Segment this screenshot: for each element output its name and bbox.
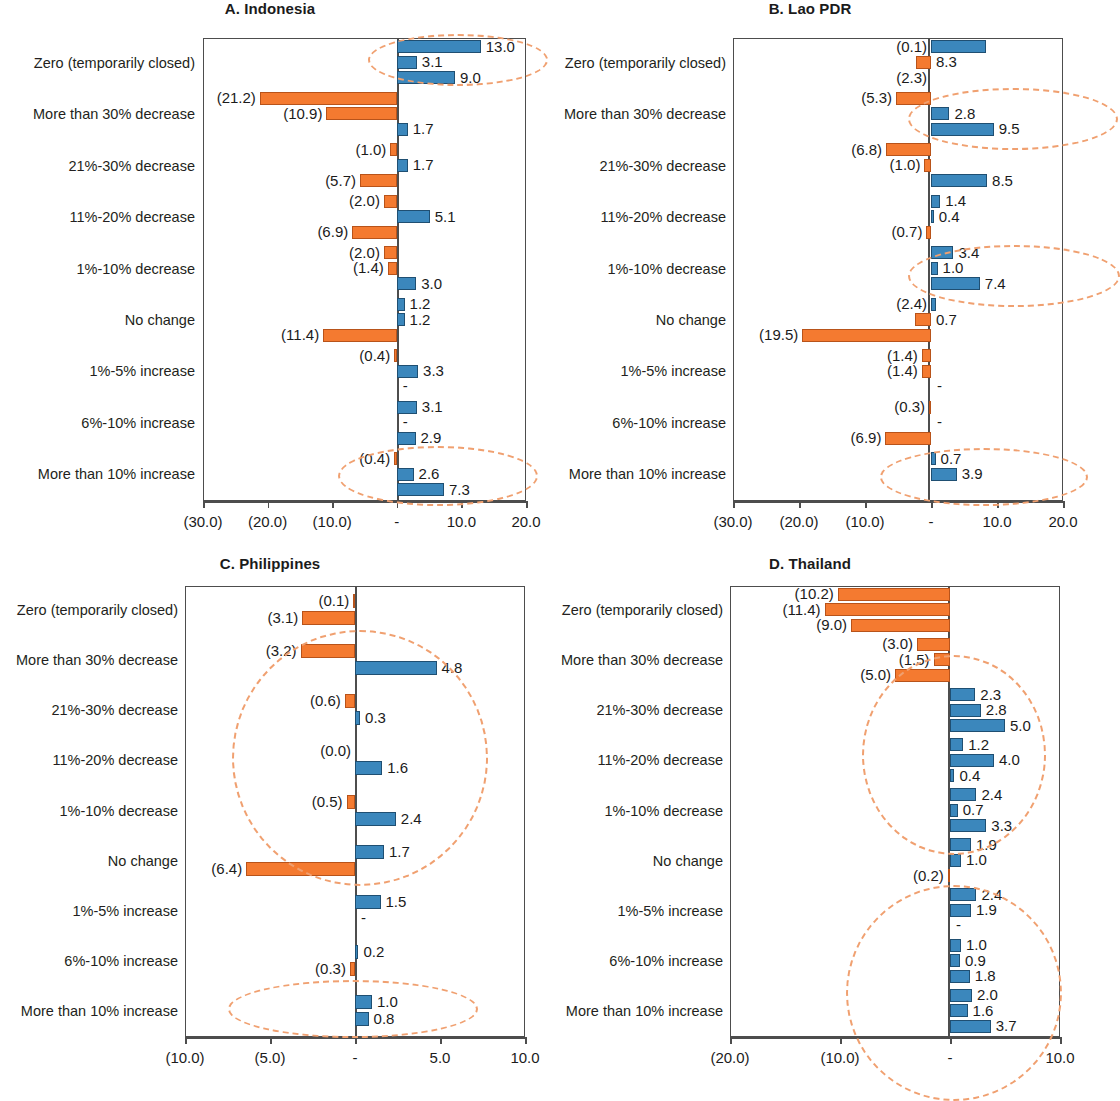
panel-c-philippines: C. Philippines Zero (temporarily closed)… <box>0 555 540 1085</box>
value-label: 1.2 <box>410 312 431 327</box>
category-label: 21%-30% decrease <box>523 703 723 718</box>
bar <box>931 277 980 290</box>
value-label: 3.7 <box>996 1018 1017 1033</box>
x-axis-tick <box>1060 1037 1062 1044</box>
bar <box>916 56 931 69</box>
panel-b-lao-pdr: B. Lao PDR Zero (temporarily closed)More… <box>540 0 1080 540</box>
value-label: (0.4) <box>0 348 390 363</box>
value-label: 13.0 <box>486 39 515 54</box>
value-label: 1.7 <box>389 844 410 859</box>
bar <box>931 298 936 311</box>
panel-d-thailand: D. Thailand Zero (temporarily closed)Mor… <box>540 555 1080 1085</box>
bar <box>895 669 950 682</box>
value-label: - <box>361 910 366 925</box>
bar <box>355 1012 369 1026</box>
bar <box>896 92 931 105</box>
bar <box>931 452 936 465</box>
value-label: (5.0) <box>540 667 891 682</box>
bar <box>246 862 355 876</box>
bar <box>950 788 976 801</box>
value-label: (6.8) <box>540 142 882 157</box>
value-label: - <box>403 414 408 429</box>
value-label: (1.0) <box>0 142 386 157</box>
category-label: More than 10% increase <box>0 467 195 482</box>
bar <box>931 262 938 275</box>
bar <box>885 432 931 445</box>
x-axis-tick <box>950 1037 952 1044</box>
panel-c-title: C. Philippines <box>0 555 540 572</box>
panel-a-title: A. Indonesia <box>0 0 540 17</box>
x-axis-tick <box>332 501 334 508</box>
bar <box>926 226 931 239</box>
bar <box>950 1004 968 1017</box>
bar <box>825 603 950 616</box>
category-label: More than 10% increase <box>0 1004 178 1019</box>
value-label: 3.0 <box>421 276 442 291</box>
category-label: 1%-5% increase <box>0 904 178 919</box>
x-axis-tick <box>397 501 399 508</box>
bar <box>355 995 372 1009</box>
value-label: 0.3 <box>365 710 386 725</box>
value-label: 3.9 <box>962 466 983 481</box>
bar <box>397 40 481 53</box>
value-label: (2.3) <box>540 70 927 85</box>
value-label: 1.7 <box>413 157 434 172</box>
x-axis-tick <box>733 501 735 508</box>
bar <box>950 688 975 701</box>
bar <box>950 704 981 717</box>
category-label: More than 30% decrease <box>526 107 726 122</box>
x-axis-tick <box>185 1037 187 1044</box>
value-label: (9.0) <box>540 617 847 632</box>
value-label: - <box>937 378 942 393</box>
value-label: 4.0 <box>999 752 1020 767</box>
bar <box>931 40 986 53</box>
value-label: 1.9 <box>976 837 997 852</box>
bar <box>950 754 994 767</box>
x-axis-tick-label: (10.0) <box>790 1050 890 1065</box>
value-label: (0.3) <box>540 399 925 414</box>
bar <box>394 349 397 362</box>
value-label: 1.0 <box>943 260 964 275</box>
bar <box>355 895 381 909</box>
value-label: (21.2) <box>0 90 256 105</box>
value-label: 9.0 <box>460 70 481 85</box>
category-label: 1%-10% decrease <box>526 262 726 277</box>
x-axis-tick <box>268 501 270 508</box>
value-label: 3.3 <box>991 818 1012 833</box>
bar <box>950 854 961 867</box>
bar <box>950 738 963 751</box>
value-label: 1.7 <box>413 121 434 136</box>
category-label: 6%-10% increase <box>526 416 726 431</box>
value-label: 1.4 <box>945 193 966 208</box>
bar <box>397 56 417 69</box>
category-label: More than 10% increase <box>526 467 726 482</box>
value-label: 3.1 <box>422 54 443 69</box>
bar <box>355 845 384 859</box>
bar <box>345 694 355 708</box>
x-axis-tick <box>440 1037 442 1044</box>
value-label: (10.2) <box>540 586 834 601</box>
x-axis-tick <box>526 501 528 508</box>
bar <box>355 812 396 826</box>
value-label: 1.0 <box>966 937 987 952</box>
bar <box>397 468 414 481</box>
value-label: 1.0 <box>377 994 398 1009</box>
bar <box>915 313 931 326</box>
value-label: (6.9) <box>540 430 881 445</box>
panel-b-x-axis <box>733 501 1064 503</box>
bar <box>260 92 397 105</box>
category-label: 1%-10% decrease <box>523 804 723 819</box>
panel-a-indonesia: A. Indonesia Zero (temporarily closed)Mo… <box>0 0 540 540</box>
bar <box>347 795 356 809</box>
bar <box>397 298 405 311</box>
category-label: 1%-5% increase <box>523 904 723 919</box>
value-label: (0.0) <box>0 743 351 758</box>
category-label: 6%-10% increase <box>523 954 723 969</box>
value-label: (0.3) <box>0 961 346 976</box>
value-label: 9.5 <box>999 121 1020 136</box>
bar <box>886 143 931 156</box>
bar <box>950 1020 991 1033</box>
value-label: (3.0) <box>540 636 913 651</box>
bar <box>931 468 957 481</box>
value-label: 0.8 <box>374 1011 395 1026</box>
